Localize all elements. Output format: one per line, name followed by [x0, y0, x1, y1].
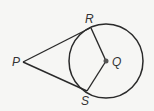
radius-qs: [87, 61, 106, 91]
label-p: P: [12, 55, 20, 69]
label-s: S: [81, 94, 89, 108]
tangent-pr: [23, 28, 90, 62]
radius-qr: [91, 28, 106, 61]
geometry-diagram: R P Q S: [0, 0, 154, 111]
center-point-q: [104, 59, 109, 64]
label-r: R: [85, 12, 94, 26]
label-q: Q: [112, 55, 121, 69]
tangent-ps: [23, 62, 87, 91]
diagram-canvas: R P Q S: [0, 0, 154, 111]
